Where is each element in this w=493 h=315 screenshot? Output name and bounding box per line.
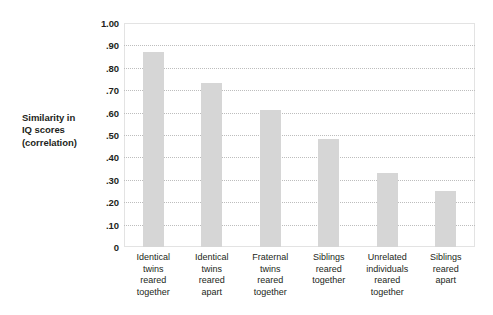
bar [143, 52, 164, 247]
y-axis-title-line-3: (correlation) [22, 137, 102, 149]
bar [201, 83, 222, 247]
y-axis-tick-label: .80 [92, 62, 119, 73]
y-axis-tick-label: .90 [92, 40, 119, 51]
y-axis-tick-label: .10 [92, 219, 119, 230]
y-axis-tick-label: .50 [92, 130, 119, 141]
x-axis-tick-label-line: together [236, 287, 305, 299]
y-axis-tick-label: 0 [92, 242, 119, 253]
bar-chart-figure: Similarity in IQ scores (correlation) 1.… [0, 0, 493, 315]
y-axis-tick-label: .70 [92, 85, 119, 96]
x-axis-tick-label-line: reared [412, 264, 481, 276]
y-axis-title-line-1: Similarity in [22, 112, 102, 124]
bar [260, 110, 281, 247]
x-axis-tick-label: Siblingsrearedapart [412, 252, 481, 287]
y-axis-tick-label: 1.00 [92, 18, 119, 29]
x-axis-tick-labels: IdenticaltwinsrearedtogetherIdenticaltwi… [124, 252, 475, 314]
y-axis-tick-label: .20 [92, 197, 119, 208]
y-axis-title: Similarity in IQ scores (correlation) [22, 112, 102, 149]
y-axis-tick-label: .60 [92, 107, 119, 118]
bar [435, 191, 456, 247]
x-axis-tick-label-line: Siblings [412, 252, 481, 264]
y-axis-title-line-2: IQ scores [22, 124, 102, 136]
y-axis-tick-label: .40 [92, 152, 119, 163]
x-axis-tick-label-line: apart [412, 275, 481, 287]
bar [318, 139, 339, 247]
y-axis-tick-label: .30 [92, 174, 119, 185]
x-axis-tick-label-line: together [353, 287, 422, 299]
bar [377, 173, 398, 247]
bars-layer [124, 23, 475, 247]
